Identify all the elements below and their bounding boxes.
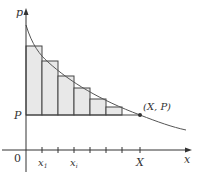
rectangle-3 bbox=[58, 76, 74, 115]
rectangle-6 bbox=[106, 107, 122, 115]
x1-label: x1 bbox=[38, 157, 47, 169]
consumer-surplus-diagram: p x 0 P (X, P) x1 xi X bbox=[0, 0, 201, 182]
price-level-label: P bbox=[13, 109, 22, 122]
y-axis-arrow-icon bbox=[24, 8, 29, 15]
rectangle-5 bbox=[90, 99, 106, 115]
xi-label: xi bbox=[70, 157, 78, 169]
y-axis-label: p bbox=[16, 6, 23, 19]
origin-label: 0 bbox=[14, 152, 21, 165]
x-axis-arrow-icon bbox=[185, 148, 192, 153]
riemann-rectangles bbox=[26, 46, 122, 115]
rectangle-4 bbox=[74, 88, 90, 115]
X-label: X bbox=[135, 156, 145, 169]
point-label: (X, P) bbox=[143, 101, 171, 112]
x-axis-label: x bbox=[184, 153, 191, 166]
rectangle-1 bbox=[26, 46, 42, 115]
equilibrium-point bbox=[138, 113, 142, 117]
